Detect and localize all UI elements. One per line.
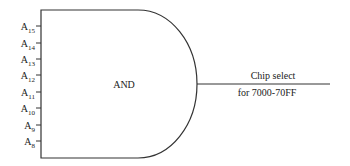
input-label-a8: A8 bbox=[24, 136, 35, 150]
and-gate-diagram: A15 A14 A13 A12 A11 A10 A9 A8 AND Chip s… bbox=[0, 0, 350, 166]
input-label-a11: A11 bbox=[21, 87, 35, 101]
input-label-a14: A14 bbox=[21, 38, 36, 52]
input-ticks bbox=[36, 26, 41, 141]
input-label-a9: A9 bbox=[24, 120, 35, 134]
output-label-line1: Chip select bbox=[251, 70, 296, 81]
input-label-a15: A15 bbox=[21, 21, 36, 35]
input-label-a13: A13 bbox=[21, 54, 36, 68]
output-label-line2: for 7000-70FF bbox=[238, 87, 297, 98]
input-labels: A15 A14 A13 A12 A11 A10 A9 A8 bbox=[21, 21, 36, 150]
gate-label: AND bbox=[113, 79, 135, 90]
input-label-a10: A10 bbox=[21, 103, 36, 117]
input-label-a12: A12 bbox=[21, 70, 36, 84]
